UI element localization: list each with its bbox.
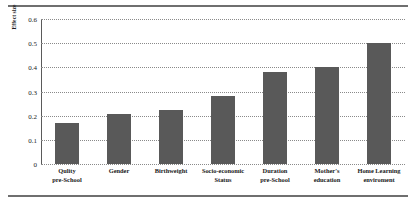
category-label-line: pre-School xyxy=(41,176,93,185)
x-axis-category-label: Durationpre-School xyxy=(249,167,301,184)
bar-slot xyxy=(93,19,145,164)
category-label-line: Birthweight xyxy=(145,167,197,176)
y-axis-tick-label: 0.1 xyxy=(28,137,37,145)
category-label-line: Qulity xyxy=(41,167,93,176)
y-axis-tick-label: 0.6 xyxy=(28,16,37,24)
bar[interactable] xyxy=(263,72,287,164)
bar-chart-figure: Effect size 00.10.20.30.40.50.6 Qulitypr… xyxy=(0,0,416,204)
x-axis-category-label: Mother'seducation xyxy=(301,167,353,184)
y-axis-tick-label: 0.5 xyxy=(28,40,37,48)
top-divider-rule xyxy=(8,5,408,7)
bar-slot xyxy=(41,19,93,164)
category-label-line: Duration xyxy=(249,167,301,176)
bar-slot xyxy=(249,19,301,164)
y-axis-tick-label: 0 xyxy=(34,161,38,169)
x-axis-category-labels: Qulitypre-SchoolGenderBirthweightSocio-e… xyxy=(41,167,405,184)
y-axis-tick-label: 0.2 xyxy=(28,113,37,121)
bar[interactable] xyxy=(107,114,131,164)
bar-slot xyxy=(301,19,353,164)
bar[interactable] xyxy=(159,110,183,164)
category-label-line: education xyxy=(301,176,353,185)
category-label-line: Gender xyxy=(93,167,145,176)
category-label-line: Status xyxy=(197,176,249,185)
bars-group xyxy=(41,19,405,164)
category-label-line: Socio-economic xyxy=(197,167,249,176)
bar[interactable] xyxy=(315,67,339,164)
x-axis-category-label: Socio-economicStatus xyxy=(197,167,249,184)
gridline: 0 xyxy=(41,164,405,165)
bar[interactable] xyxy=(55,123,79,164)
bar-slot xyxy=(197,19,249,164)
y-axis-tick-label: 0.3 xyxy=(28,89,37,97)
category-label-line: pre-School xyxy=(249,176,301,185)
bar-slot xyxy=(353,19,405,164)
bottom-divider-rule xyxy=(8,195,408,197)
y-axis-title: Effect size xyxy=(11,0,17,43)
bar[interactable] xyxy=(211,96,235,164)
category-label-line: Mother's xyxy=(301,167,353,176)
y-axis-tick-label: 0.4 xyxy=(28,64,37,72)
bar-slot xyxy=(145,19,197,164)
category-label-line: Home Learning xyxy=(353,167,405,176)
bar[interactable] xyxy=(367,43,391,164)
x-axis-category-label: Birthweight xyxy=(145,167,197,184)
x-axis-category-label: Gender xyxy=(93,167,145,184)
plot-area: 00.10.20.30.40.50.6 xyxy=(41,19,405,164)
x-axis-category-label: Qulitypre-School xyxy=(41,167,93,184)
x-axis-category-label: Home Learningenviroment xyxy=(353,167,405,184)
category-label-line: enviroment xyxy=(353,176,405,185)
